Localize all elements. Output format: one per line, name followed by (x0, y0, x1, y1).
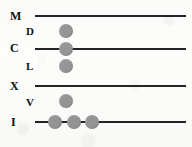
roman-abacus-figure: MDCLXVI (0, 0, 192, 147)
rod-label-x: X (10, 80, 19, 92)
rod-label-m: M (10, 10, 22, 22)
rod-label-i: I (11, 116, 16, 128)
rod-label-d: D (26, 26, 34, 37)
bead-v-1[interactable] (59, 94, 73, 108)
rod-label-l: L (26, 61, 34, 72)
bead-i-1[interactable] (48, 115, 62, 129)
rod-label-v: V (26, 97, 34, 108)
rod-line-m (35, 15, 186, 17)
rod-line-x (35, 85, 186, 87)
bead-l-1[interactable] (59, 59, 73, 73)
bead-c-1[interactable] (59, 42, 73, 56)
rod-label-c: C (10, 42, 19, 54)
bead-d-1[interactable] (59, 24, 73, 38)
rod-line-c (35, 48, 186, 50)
bead-i-2[interactable] (67, 115, 81, 129)
bead-i-3[interactable] (85, 115, 99, 129)
